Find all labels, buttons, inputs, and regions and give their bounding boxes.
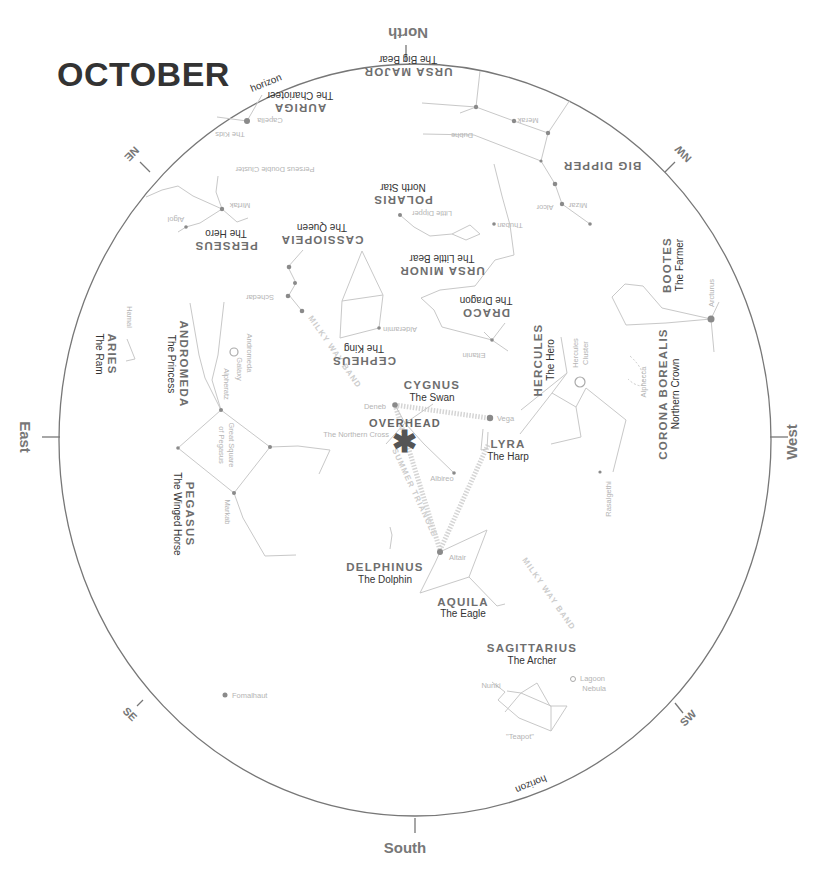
draco-label: DRACO The Dragon — [460, 295, 513, 319]
svg-text:PERSEUS: PERSEUS — [194, 240, 257, 252]
lagoon-nebula-marker — [571, 677, 576, 682]
svg-text:HERCULES: HERCULES — [532, 324, 544, 397]
svg-text:The Princess: The Princess — [166, 335, 177, 393]
svg-text:The Hero: The Hero — [205, 228, 247, 239]
delphinus-label: DELPHINUS The Dolphin — [346, 561, 423, 585]
star-hamal: Hamal — [125, 306, 134, 328]
svg-text:The Hero: The Hero — [545, 339, 556, 381]
summer-triangle-label: SUMMER TRIANGLE — [390, 447, 439, 538]
svg-text:ARIES: ARIES — [106, 333, 118, 374]
star-fomalhaut: Fomalhaut — [232, 691, 268, 700]
overhead-label: OVERHEAD — [369, 417, 441, 429]
svg-text:AQUILA: AQUILA — [437, 596, 488, 608]
svg-text:SAGITTARIUS: SAGITTARIUS — [487, 642, 577, 654]
direction-nw: NW — [672, 143, 694, 165]
direction-se: SE — [121, 705, 140, 724]
star-alpheratz: Alpheratz — [222, 368, 231, 400]
star-altair: Altair — [449, 553, 467, 562]
star-markab: Markab — [223, 499, 232, 524]
pegasus-label: PEGASUS The Winged Horse — [172, 472, 196, 556]
star-alphecca: Alphecca — [639, 366, 648, 398]
svg-text:The Ram: The Ram — [94, 333, 105, 374]
star-hercules-cluster-2: Cluster — [581, 341, 590, 365]
star-the-kids: The Kids — [215, 130, 245, 139]
big-dipper-label: BIG DIPPER — [563, 160, 641, 172]
star-albireo: Albireo — [430, 474, 453, 483]
svg-text:POLARIS: POLARIS — [373, 194, 433, 206]
svg-text:LYRA: LYRA — [490, 438, 525, 450]
direction-south: South — [384, 839, 427, 856]
star-algol: Algol — [167, 215, 184, 224]
svg-text:The Farmer: The Farmer — [674, 238, 685, 291]
horizon-label-bottom: horizon — [514, 773, 549, 795]
star-deneb: Deneb — [364, 402, 386, 411]
star-hercules-cluster: Hercules — [571, 338, 580, 368]
aquila-label: AQUILA The Eagle — [437, 596, 488, 619]
star-eltanin: Eltanin — [463, 351, 486, 360]
svg-text:BOOTES: BOOTES — [661, 237, 673, 293]
svg-text:CEPHEUS: CEPHEUS — [332, 355, 396, 367]
perseus-label: PERSEUS The Hero — [194, 228, 257, 252]
svg-text:ANDROMEDA: ANDROMEDA — [178, 321, 190, 408]
star-andromeda-galaxy-2: Galaxy — [235, 357, 244, 381]
star-schedar: Schedar — [246, 293, 274, 302]
star-arcturus: Arcturus — [707, 279, 716, 307]
svg-text:CASSIOPEIA: CASSIOPEIA — [281, 234, 364, 246]
svg-text:PEGASUS: PEGASUS — [184, 482, 196, 547]
cygnus-label: CYGNUS The Swan — [404, 379, 460, 403]
star-dubhe: Dubhe — [451, 131, 473, 140]
svg-text:North Star: North Star — [380, 182, 426, 193]
star-perseus-double-cluster: Perseus Double Cluster — [235, 165, 315, 174]
star-andromeda-galaxy: Andromeda — [245, 334, 254, 374]
svg-text:The Swan: The Swan — [409, 392, 454, 403]
star-merak: Merak — [517, 116, 538, 125]
cassiopeia-label: CASSIOPEIA The Queen — [281, 222, 364, 246]
star-vega: Vega — [497, 414, 515, 423]
svg-text:DELPHINUS: DELPHINUS — [346, 561, 423, 573]
star-teapot: "Teapot" — [506, 732, 534, 741]
star-alcor: Alcor — [536, 203, 554, 212]
svg-text:The Charioteer: The Charioteer — [266, 90, 333, 101]
svg-text:URSA MINOR: URSA MINOR — [399, 265, 485, 277]
star-great-square: Great Square — [227, 422, 236, 467]
star-great-square-2: of Pegasus — [217, 426, 226, 464]
svg-text:The Big Bear: The Big Bear — [378, 54, 437, 65]
star-alderamin: Alderamin — [383, 325, 417, 334]
ursa-minor-label: URSA MINOR The Little Bear — [399, 253, 485, 277]
auriga-label: AURIGA The Charioteer — [266, 90, 333, 114]
svg-text:Northern Crown: Northern Crown — [670, 359, 681, 430]
star-rasalgethi: Rasalgethi — [604, 481, 613, 517]
star-mizar: Mizar — [568, 201, 587, 210]
andromeda-galaxy-marker — [230, 348, 238, 356]
corona-borealis-label: CORONA BOREALIS Northern Crown — [657, 328, 681, 459]
star-mirfak: Mirfak — [230, 201, 251, 210]
direction-west: West — [783, 424, 800, 460]
lyra-label: LYRA The Harp — [487, 438, 529, 462]
svg-text:AURIGA: AURIGA — [274, 102, 327, 114]
direction-north: North — [388, 25, 428, 42]
svg-text:The King: The King — [344, 343, 384, 354]
star-chart: North South East West NE NW SE SW horizo… — [0, 0, 831, 889]
aries-label: ARIES The Ram — [94, 333, 118, 374]
star-lagoon-nebula: Lagoon — [580, 674, 605, 683]
svg-text:The Eagle: The Eagle — [440, 608, 486, 619]
svg-text:The Harp: The Harp — [487, 451, 529, 462]
direction-east: East — [17, 421, 34, 453]
star-little-dipper: Little Dipper — [411, 209, 452, 218]
svg-text:The Archer: The Archer — [508, 655, 558, 666]
star-nunki: Nunki — [481, 681, 501, 690]
overhead-asterisk-icon: ✱ — [392, 425, 417, 458]
hercules-label: HERCULES The Hero — [532, 324, 556, 397]
svg-text:URSA MAJOR: URSA MAJOR — [364, 66, 453, 78]
svg-text:The Queen: The Queen — [297, 222, 347, 233]
svg-text:CYGNUS: CYGNUS — [404, 379, 460, 391]
andromeda-label: ANDROMEDA The Princess — [166, 321, 190, 408]
svg-text:The Dragon: The Dragon — [460, 295, 513, 306]
svg-text:The Little Bear: The Little Bear — [409, 253, 475, 264]
direction-ne: NE — [122, 144, 141, 163]
star-capella: Capella — [256, 116, 282, 125]
star-lagoon-nebula-2: Nebula — [582, 684, 607, 693]
svg-text:CORONA BOREALIS: CORONA BOREALIS — [657, 328, 669, 459]
star-northern-cross: The Northern Cross — [323, 430, 389, 439]
polaris-label: POLARIS North Star — [373, 182, 433, 206]
